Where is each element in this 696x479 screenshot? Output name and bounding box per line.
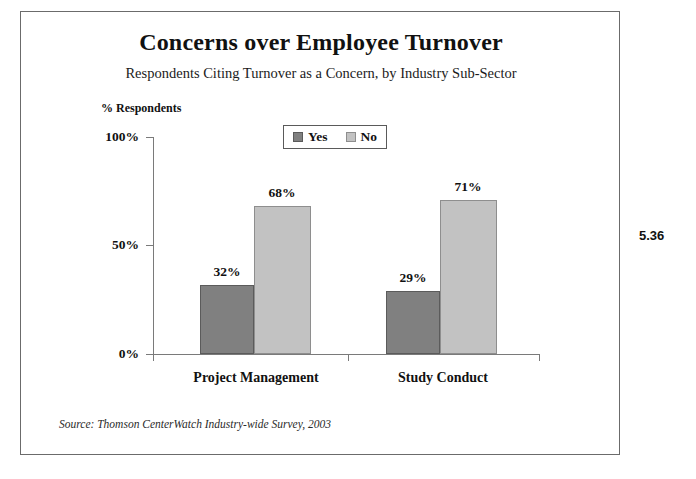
bar-project-management-no[interactable]	[254, 206, 311, 354]
legend-label-no: No	[361, 130, 378, 144]
bar-label-study-conduct-no: 71%	[433, 179, 503, 195]
x-axis-line	[153, 354, 539, 355]
figure-number: 5.36	[639, 228, 664, 243]
legend-swatch-yes-icon	[293, 132, 303, 142]
bar-project-management-yes[interactable]	[200, 285, 254, 354]
plot-area: 100% 50% 0% 32% 68% 29% 71% Project Mana…	[21, 12, 621, 456]
y-tick-label-50: 50%	[79, 237, 139, 253]
y-tick-mark-100	[146, 137, 154, 138]
x-tick-mark-start	[153, 354, 154, 361]
y-tick-label-100: 100%	[79, 129, 139, 145]
legend-entry-yes[interactable]: Yes	[293, 130, 328, 144]
y-tick-mark-50	[146, 245, 154, 246]
x-category-label-study-conduct: Study Conduct	[333, 370, 553, 386]
chart-legend: Yes No	[283, 125, 387, 149]
bar-study-conduct-no[interactable]	[440, 200, 497, 354]
x-tick-mark-separator	[348, 354, 349, 361]
y-axis-line	[153, 137, 154, 355]
y-tick-label-0: 0%	[79, 346, 139, 362]
bar-label-study-conduct-yes: 29%	[378, 270, 448, 286]
x-tick-mark-end	[539, 354, 540, 361]
bar-label-project-management-yes: 32%	[192, 264, 262, 280]
source-note: Source: Thomson CenterWatch Industry-wid…	[59, 418, 331, 430]
figure-frame: Concerns over Employee Turnover Responde…	[20, 11, 620, 455]
legend-label-yes: Yes	[308, 130, 328, 144]
legend-entry-no[interactable]: No	[346, 130, 378, 144]
bar-label-project-management-no: 68%	[247, 185, 317, 201]
legend-swatch-no-icon	[346, 132, 356, 142]
bar-study-conduct-yes[interactable]	[386, 291, 440, 354]
